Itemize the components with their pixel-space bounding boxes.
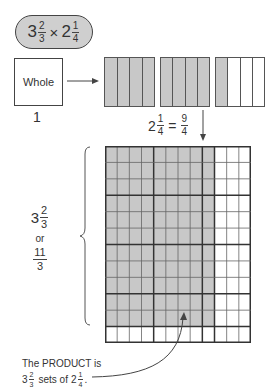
caption-line-2: 3 2 3 sets of 2 1 4 . — [22, 371, 101, 388]
caption-fraction-1: 2 3 — [29, 371, 35, 388]
right-arrow-icon — [66, 76, 100, 86]
product-caption: The PRODUCT is 3 2 3 sets of 2 1 4 . — [22, 357, 101, 388]
eq-fraction: 1 4 — [157, 114, 165, 137]
area-model-grid — [105, 146, 251, 343]
eq-improper-fraction: 9 4 — [181, 114, 189, 137]
multiplier-improper-fraction: 11 3 — [33, 247, 46, 272]
multiplier-whole: 3 — [31, 209, 39, 226]
first-fraction: 2 3 — [38, 21, 46, 44]
multiplier-label: 3 2 3 or 11 3 — [20, 205, 60, 272]
or-label: or — [36, 233, 45, 244]
expression-pill: 3 2 3 × 2 1 4 — [15, 15, 93, 49]
second-whole: 2 — [61, 22, 70, 42]
whole-value-label: 1 — [33, 109, 41, 125]
fraction-bar-1 — [104, 57, 155, 107]
equation-label: 2 1 4 = 9 4 — [148, 114, 189, 137]
down-arrow-icon — [198, 110, 208, 142]
whole-box: Whole — [14, 58, 63, 106]
fraction-bar-3 — [215, 57, 265, 107]
caption-line-1: The PRODUCT is — [22, 357, 101, 371]
first-whole: 3 — [28, 22, 37, 42]
multiplier-fraction: 2 3 — [40, 205, 48, 230]
caption-fraction-2: 1 4 — [78, 371, 84, 388]
left-brace-icon — [78, 146, 94, 326]
fraction-bar-2 — [160, 57, 210, 107]
eq-whole: 2 — [148, 118, 156, 134]
multiply-operator: × — [50, 24, 59, 41]
whole-label: Whole — [23, 76, 54, 88]
eq-equals: = — [168, 118, 176, 134]
second-fraction: 1 4 — [72, 21, 80, 44]
